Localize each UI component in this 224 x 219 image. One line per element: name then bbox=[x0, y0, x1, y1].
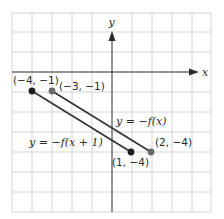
label-eq-neg-f-x-plus-1: y = −f(x + 1) bbox=[28, 136, 103, 149]
x-axis-label: x bbox=[202, 66, 209, 79]
label-point-1-neg4: (1, −4) bbox=[112, 156, 149, 168]
label-point-2-neg4: (2, −4) bbox=[155, 136, 192, 148]
x-axis-arrow-icon bbox=[189, 69, 199, 76]
label-eq-neg-f-x: y = −f(x) bbox=[115, 115, 167, 128]
point-2-neg4 bbox=[148, 149, 155, 156]
point-neg3-neg1 bbox=[49, 88, 56, 95]
graph: x y (−4, −1) (−3, −1) (1, −4) (2, −4) y … bbox=[0, 0, 224, 219]
point-neg4-neg1 bbox=[29, 88, 36, 95]
label-point-neg3-neg1: (−3, −1) bbox=[59, 80, 105, 92]
label-point-neg4-neg1: (−4, −1) bbox=[13, 74, 59, 86]
point-1-neg4 bbox=[128, 149, 135, 156]
y-axis-label: y bbox=[108, 16, 116, 29]
